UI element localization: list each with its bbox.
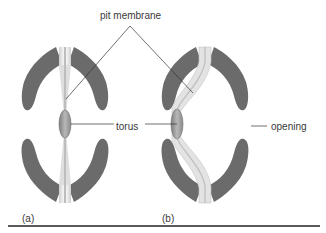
- cell-wall-upper-right-b: [208, 47, 248, 110]
- cell-wall-lower-left: [22, 139, 62, 202]
- cell-wall-upper-left: [22, 47, 62, 110]
- label-pit-membrane: pit membrane: [100, 11, 161, 21]
- label-opening: opening: [271, 122, 307, 132]
- cell-wall-lower-right: [68, 139, 108, 202]
- cell-wall-lower-right-b: [208, 139, 248, 202]
- label-torus: torus: [116, 122, 138, 132]
- panel-a: [22, 47, 109, 203]
- panel-label-b: (b): [162, 214, 174, 224]
- panel-label-a: (a): [22, 214, 34, 224]
- torus-a: [59, 110, 71, 138]
- bordered-pit-diagram: [0, 0, 326, 233]
- cell-wall-upper-right: [68, 47, 108, 110]
- panel-b: [162, 47, 249, 203]
